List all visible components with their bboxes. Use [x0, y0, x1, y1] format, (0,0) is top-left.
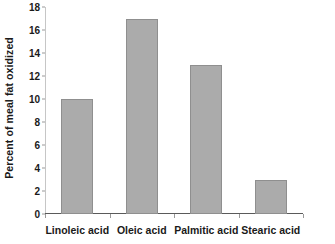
y-tick-mark — [42, 122, 45, 123]
y-tick-mark — [42, 7, 45, 8]
x-axis-labels: Linoleic acidOleic acidPalmitic acidStea… — [45, 224, 303, 240]
y-tick-label: 18 — [29, 2, 40, 13]
bar — [255, 180, 287, 215]
x-tick-label: Linoleic acid — [45, 224, 109, 236]
y-tick-mark — [42, 53, 45, 54]
bar — [61, 99, 93, 214]
y-tick-label: 8 — [34, 117, 40, 128]
y-tick-label: 12 — [29, 71, 40, 82]
y-axis-title: Percent of meal fat oxidized — [0, 0, 18, 216]
x-tick-label: Oleic acid — [117, 224, 167, 236]
x-axis-separator — [174, 214, 175, 218]
bar-chart: Percent of meal fat oxidized 02468101214… — [0, 0, 335, 244]
y-axis-line — [45, 7, 46, 214]
bar — [190, 65, 222, 215]
bar — [126, 19, 158, 215]
x-axis-end-tick — [303, 214, 304, 218]
x-axis-separator — [110, 214, 111, 218]
x-axis-separator — [239, 214, 240, 218]
y-tick-label: 4 — [34, 163, 40, 174]
y-tick-mark — [42, 145, 45, 146]
y-tick-label: 2 — [34, 186, 40, 197]
y-tick-mark — [42, 30, 45, 31]
y-tick-mark — [42, 191, 45, 192]
y-tick-label: 14 — [29, 48, 40, 59]
x-tick-label: Stearic acid — [241, 224, 300, 236]
y-tick-mark — [42, 168, 45, 169]
y-tick-label: 16 — [29, 25, 40, 36]
x-tick-label: Palmitic acid — [174, 224, 238, 236]
y-tick-mark — [42, 99, 45, 100]
y-axis-title-label: Percent of meal fat oxidized — [3, 37, 15, 179]
plot-area: 024681012141618 — [45, 7, 303, 214]
y-tick-label: 6 — [34, 140, 40, 151]
x-axis-end-tick — [45, 214, 46, 218]
y-tick-mark — [42, 76, 45, 77]
y-tick-label: 0 — [34, 209, 40, 220]
y-tick-label: 10 — [29, 94, 40, 105]
